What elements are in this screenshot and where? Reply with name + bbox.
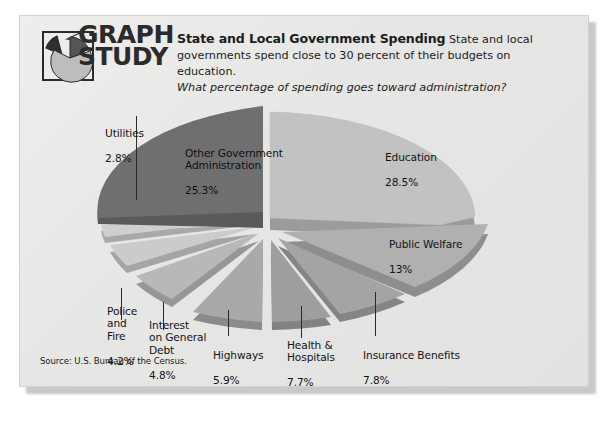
label-highways-value: 5.9% <box>213 374 264 387</box>
page-title: State and Local Government Spending <box>177 31 445 46</box>
label-education-name: Education <box>385 151 437 164</box>
label-health-name: Health & Hospitals <box>287 339 335 364</box>
label-health-hospitals: Health & Hospitals 7.7% <box>287 326 335 387</box>
label-insurance-name: Insurance Benefits <box>363 349 460 362</box>
label-highways-name: Highways <box>213 349 264 362</box>
label-interest-name: Interest on General Debt <box>149 319 206 357</box>
label-insurance-value: 7.8% <box>363 374 460 387</box>
header-question: What percentage of spending goes toward … <box>177 81 507 94</box>
label-other-government-administration: Other Government Administration 25.3% <box>185 134 283 209</box>
logo-word-line2: STUDY <box>78 46 188 68</box>
label-utilities: Utilities 2.8% <box>105 114 144 177</box>
label-insurance-benefits: Insurance Benefits 7.8% <box>363 336 460 387</box>
header-text-block: State and Local Government Spending Stat… <box>177 30 572 96</box>
leader-line-insurance <box>375 292 376 336</box>
label-public-welfare-name: Public Welfare <box>389 238 463 251</box>
label-education: Education 28.5% <box>385 138 437 201</box>
label-education-value: 28.5% <box>385 176 437 189</box>
label-interest-general-debt: Interest on General Debt 4.8% <box>149 306 206 387</box>
label-public-welfare: Public Welfare 13% <box>389 225 463 288</box>
source-note: Source: U.S. Bureau of the Census. <box>40 356 187 366</box>
screenshot-root: GRAPH STUDY State and Local Government S… <box>0 0 612 423</box>
label-utilities-name: Utilities <box>105 127 144 140</box>
label-other-admin-value: 25.3% <box>185 184 283 197</box>
graph-study-card: GRAPH STUDY State and Local Government S… <box>19 15 589 387</box>
label-health-value: 7.7% <box>287 376 335 387</box>
label-public-welfare-value: 13% <box>389 263 463 276</box>
card-header: GRAPH STUDY State and Local Government S… <box>20 16 589 94</box>
label-utilities-value: 2.8% <box>105 152 144 165</box>
label-police-fire-name: Police and Fire <box>107 305 147 343</box>
logo-wordmark: GRAPH STUDY <box>78 24 188 68</box>
label-other-admin-name: Other Government Administration <box>185 147 283 172</box>
label-highways: Highways 5.9% <box>213 336 264 387</box>
label-police-fire: Police and Fire 4.2% <box>107 292 147 380</box>
leader-line-highways <box>228 310 229 336</box>
slice-education <box>270 112 475 237</box>
pie-chart: Other Government Administration 25.3% Ed… <box>20 94 589 364</box>
label-interest-value: 4.8% <box>149 369 206 382</box>
